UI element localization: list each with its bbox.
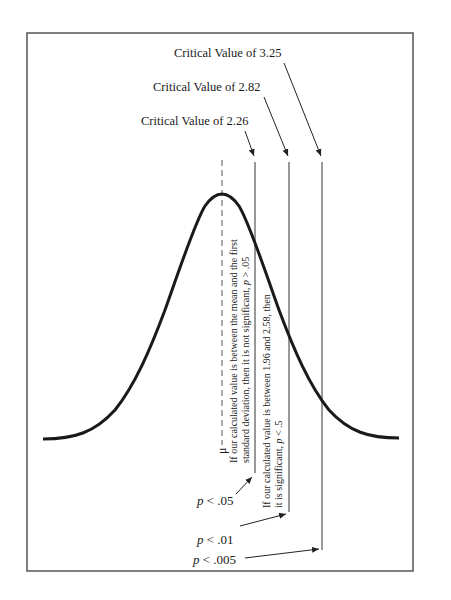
arrow-p-005 bbox=[245, 549, 319, 558]
arrow-p-05 bbox=[236, 477, 252, 494]
p-label-01: p < .01 bbox=[196, 532, 234, 547]
arrow-2-26 bbox=[245, 131, 254, 156]
critical-value-label-3-25: Critical Value of 3.25 bbox=[174, 46, 281, 60]
p-label-005: p < .005 bbox=[192, 552, 236, 567]
arrow-3-25 bbox=[284, 63, 321, 156]
arrow-p-01 bbox=[240, 514, 286, 526]
normal-curve bbox=[43, 194, 399, 439]
annotation-not-significant-line1: If our calculated value is between the m… bbox=[228, 239, 239, 463]
critical-value-label-2-82: Critical Value of 2.82 bbox=[153, 80, 260, 94]
arrow-2-82 bbox=[264, 97, 288, 156]
normal-distribution-figure: Critical Value of 3.25 Critical Value of… bbox=[0, 0, 451, 600]
p-label-05: p < .05 bbox=[196, 493, 234, 508]
critical-value-label-2-26: Critical Value of 2.26 bbox=[141, 114, 248, 128]
annotation-not-significant-line2: standard deviation, then it is not signi… bbox=[240, 257, 251, 463]
mean-symbol: μ bbox=[215, 448, 229, 454]
annotation-significant-line2: it is significant, p < .5 bbox=[273, 420, 284, 508]
annotation-significant-line1: If our calculated value is between 1.96 … bbox=[261, 294, 272, 508]
